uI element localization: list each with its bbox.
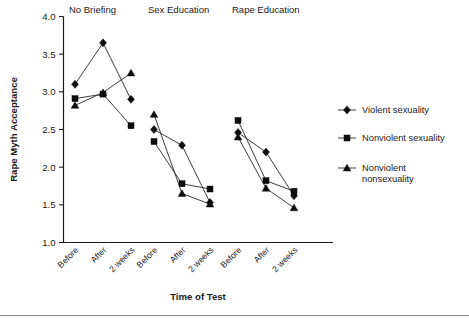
panel-title: No Briefing — [69, 4, 116, 15]
x-tick-label: After — [252, 245, 272, 265]
x-tick-label-group: 2 weeks — [107, 245, 136, 274]
y-tick-label: 2.5 — [42, 124, 55, 135]
x-tick-label-group: 2 weeks — [270, 245, 299, 274]
y-tick-label: 1.5 — [42, 199, 55, 210]
x-tick-label-group: Before — [218, 245, 243, 270]
x-tick-label: After — [89, 245, 109, 265]
data-point-square — [151, 139, 157, 145]
data-point-triangle — [178, 190, 186, 197]
data-point-square — [207, 186, 213, 192]
x-tick-label-group: Before — [134, 245, 159, 270]
legend-marker-square — [344, 135, 350, 141]
data-point-square — [263, 178, 269, 184]
series-line — [75, 94, 131, 126]
y-tick-label: 1.0 — [42, 237, 55, 248]
data-point-triangle — [290, 204, 298, 211]
data-point-diamond — [263, 148, 270, 156]
x-tick-label: After — [168, 245, 188, 265]
x-tick-label-group: Before — [55, 245, 80, 270]
bottom-divider — [0, 315, 469, 316]
legend-label: Nonviolent sexuality — [362, 133, 445, 143]
y-tick-label: 2.0 — [42, 162, 55, 173]
data-point-diamond — [72, 80, 79, 88]
chart-figure: 1.01.52.02.53.03.54.0No BriefingBeforeAf… — [0, 0, 469, 323]
line-chart: 1.01.52.02.53.03.54.0No BriefingBeforeAf… — [0, 0, 469, 323]
x-tick-label-group: After — [252, 245, 272, 265]
x-tick-label: Before — [218, 245, 243, 270]
legend-label-cont: nonsexuality — [362, 174, 414, 184]
data-point-diamond — [100, 39, 107, 47]
x-tick-label: 2 weeks — [186, 245, 215, 274]
data-point-triangle — [71, 102, 79, 109]
x-tick-label-group: After — [89, 245, 109, 265]
data-point-square — [128, 123, 134, 129]
x-tick-label: Before — [55, 245, 80, 270]
legend-marker-diamond — [344, 106, 351, 114]
data-point-square — [179, 181, 185, 187]
data-point-triangle — [127, 69, 135, 76]
data-point-diamond — [151, 126, 158, 134]
y-axis-title-group: Rape Myth Acceptance — [8, 77, 19, 182]
data-point-square — [72, 96, 78, 102]
x-axis-title: Time of Test — [170, 291, 226, 302]
x-tick-label: Before — [134, 245, 159, 270]
y-axis-title: Rape Myth Acceptance — [8, 77, 19, 182]
legend-label: Violent sexuality — [362, 105, 429, 115]
x-tick-label-group: After — [168, 245, 188, 265]
data-point-diamond — [128, 95, 135, 103]
data-point-triangle — [262, 185, 270, 192]
legend-label: Nonviolent — [362, 163, 406, 173]
y-tick-label: 4.0 — [42, 11, 55, 22]
data-point-diamond — [179, 141, 186, 149]
x-tick-label: 2 weeks — [270, 245, 299, 274]
panel-title: Sex Education — [148, 4, 209, 15]
y-tick-label: 3.0 — [42, 86, 55, 97]
series-line — [238, 137, 294, 208]
y-tick-label: 3.5 — [42, 49, 55, 60]
data-point-square — [291, 188, 297, 194]
panel-title: Rape Education — [232, 4, 300, 15]
data-point-square — [235, 117, 241, 123]
x-tick-label: 2 weeks — [107, 245, 136, 274]
x-tick-label-group: 2 weeks — [186, 245, 215, 274]
data-point-triangle — [150, 111, 158, 118]
